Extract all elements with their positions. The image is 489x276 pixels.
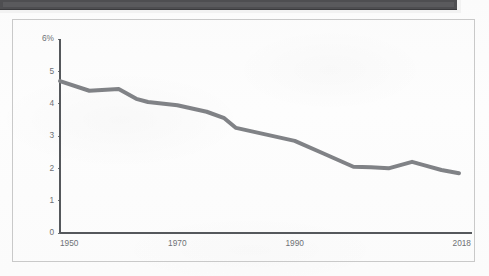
x-tick-label: 1990 xyxy=(285,238,304,248)
x-tick-label: 2018 xyxy=(453,238,472,248)
chart-panel: 0123456% 1950197019902018 xyxy=(12,19,475,262)
photo-dark-band xyxy=(0,0,457,10)
data-series-line xyxy=(60,81,459,173)
x-tick-label: 1950 xyxy=(60,238,79,248)
x-tick-label: 1970 xyxy=(168,238,187,248)
y-tick-label: 0 xyxy=(49,227,54,237)
y-tick-label: 1 xyxy=(49,195,54,205)
y-tick-label: 3 xyxy=(49,130,54,140)
y-tick-label: 5 xyxy=(49,66,54,76)
y-axis-tick-labels: 0123456% xyxy=(42,33,55,237)
cropped-photo-strip xyxy=(0,0,461,13)
y-tick-label: 4 xyxy=(49,98,54,108)
line-chart: 0123456% 1950197019902018 xyxy=(13,20,476,263)
x-axis-tick-labels: 1950197019902018 xyxy=(60,238,471,248)
y-tick-label: 2 xyxy=(49,163,54,173)
y-tick-label: 6% xyxy=(42,33,55,43)
